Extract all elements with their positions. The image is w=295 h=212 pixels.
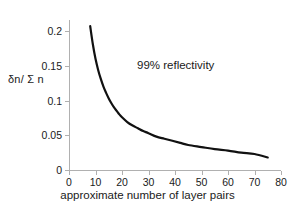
data-curve (0, 0, 295, 212)
curve-path (90, 26, 268, 157)
chart-figure: 00.050.10.150.2 01020304050607080 δn/ Σ … (0, 0, 295, 212)
